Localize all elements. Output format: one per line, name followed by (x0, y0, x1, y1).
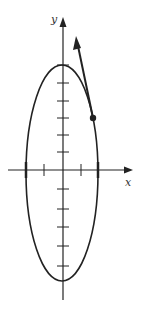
y-axis-arrowhead-icon (60, 17, 67, 27)
tangent-vector (78, 46, 93, 118)
tangent-point (90, 115, 96, 121)
x-axis-label: x (125, 176, 132, 189)
x-axis-arrowhead-icon (124, 167, 133, 174)
tangent-arrowhead-icon (73, 36, 81, 50)
ellipse-diagram: y x (0, 0, 150, 312)
ellipse-curve (26, 65, 98, 281)
y-axis-label: y (50, 13, 58, 26)
